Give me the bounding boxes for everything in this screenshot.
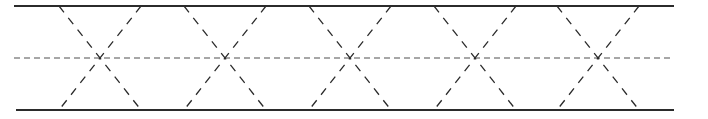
zigzag-diagram — [0, 0, 708, 119]
